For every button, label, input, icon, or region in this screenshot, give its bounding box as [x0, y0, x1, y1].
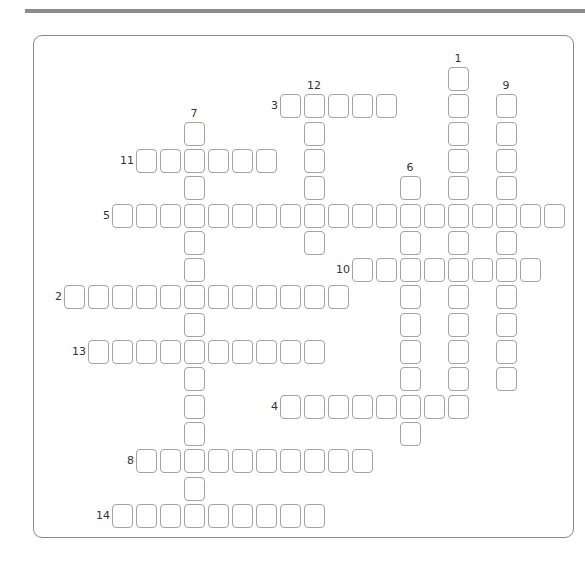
crossword-cell[interactable] [304, 395, 325, 419]
crossword-cell[interactable] [232, 449, 253, 473]
crossword-cell[interactable] [496, 176, 517, 200]
crossword-cell[interactable] [256, 504, 277, 528]
crossword-cell[interactable] [496, 204, 517, 228]
crossword-cell[interactable] [520, 204, 541, 228]
crossword-cell[interactable] [376, 258, 397, 282]
crossword-cell[interactable] [112, 204, 133, 228]
crossword-cell[interactable] [304, 94, 325, 118]
crossword-cell[interactable] [136, 204, 157, 228]
crossword-cell[interactable] [304, 231, 325, 255]
crossword-cell[interactable] [232, 204, 253, 228]
crossword-cell[interactable] [304, 149, 325, 173]
crossword-cell[interactable] [160, 504, 181, 528]
crossword-cell[interactable] [448, 149, 469, 173]
crossword-cell[interactable] [376, 395, 397, 419]
crossword-cell[interactable] [184, 231, 205, 255]
crossword-cell[interactable] [448, 204, 469, 228]
crossword-cell[interactable] [352, 258, 373, 282]
crossword-cell[interactable] [400, 204, 421, 228]
crossword-cell[interactable] [184, 422, 205, 446]
crossword-cell[interactable] [280, 204, 301, 228]
crossword-cell[interactable] [304, 204, 325, 228]
crossword-cell[interactable] [160, 449, 181, 473]
crossword-cell[interactable] [496, 231, 517, 255]
crossword-cell[interactable] [304, 449, 325, 473]
crossword-cell[interactable] [448, 231, 469, 255]
crossword-cell[interactable] [160, 204, 181, 228]
crossword-cell[interactable] [64, 285, 85, 309]
crossword-cell[interactable] [208, 340, 229, 364]
crossword-cell[interactable] [232, 149, 253, 173]
crossword-cell[interactable] [208, 504, 229, 528]
crossword-cell[interactable] [184, 285, 205, 309]
crossword-cell[interactable] [232, 340, 253, 364]
crossword-cell[interactable] [448, 258, 469, 282]
crossword-cell[interactable] [400, 285, 421, 309]
crossword-cell[interactable] [496, 122, 517, 146]
crossword-cell[interactable] [256, 149, 277, 173]
crossword-cell[interactable] [184, 449, 205, 473]
crossword-cell[interactable] [520, 258, 541, 282]
crossword-cell[interactable] [400, 422, 421, 446]
crossword-cell[interactable] [496, 285, 517, 309]
crossword-cell[interactable] [136, 449, 157, 473]
crossword-cell[interactable] [256, 340, 277, 364]
crossword-cell[interactable] [208, 149, 229, 173]
crossword-cell[interactable] [232, 285, 253, 309]
crossword-cell[interactable] [448, 367, 469, 391]
crossword-cell[interactable] [112, 340, 133, 364]
crossword-cell[interactable] [160, 285, 181, 309]
crossword-cell[interactable] [136, 504, 157, 528]
crossword-cell[interactable] [232, 504, 253, 528]
crossword-cell[interactable] [208, 285, 229, 309]
crossword-cell[interactable] [160, 149, 181, 173]
crossword-cell[interactable] [496, 367, 517, 391]
crossword-cell[interactable] [280, 504, 301, 528]
crossword-cell[interactable] [448, 313, 469, 337]
crossword-cell[interactable] [400, 395, 421, 419]
crossword-cell[interactable] [136, 149, 157, 173]
crossword-cell[interactable] [184, 504, 205, 528]
crossword-cell[interactable] [496, 313, 517, 337]
crossword-cell[interactable] [448, 67, 469, 91]
crossword-cell[interactable] [400, 313, 421, 337]
crossword-cell[interactable] [208, 204, 229, 228]
crossword-cell[interactable] [136, 285, 157, 309]
crossword-cell[interactable] [136, 340, 157, 364]
crossword-cell[interactable] [184, 258, 205, 282]
crossword-cell[interactable] [400, 176, 421, 200]
crossword-cell[interactable] [448, 340, 469, 364]
crossword-cell[interactable] [184, 122, 205, 146]
crossword-cell[interactable] [400, 367, 421, 391]
crossword-cell[interactable] [352, 204, 373, 228]
crossword-cell[interactable] [376, 204, 397, 228]
crossword-cell[interactable] [88, 340, 109, 364]
crossword-cell[interactable] [256, 204, 277, 228]
crossword-cell[interactable] [304, 340, 325, 364]
crossword-cell[interactable] [376, 94, 397, 118]
crossword-cell[interactable] [304, 176, 325, 200]
crossword-cell[interactable] [352, 449, 373, 473]
crossword-cell[interactable] [184, 340, 205, 364]
crossword-cell[interactable] [256, 285, 277, 309]
crossword-cell[interactable] [352, 395, 373, 419]
crossword-cell[interactable] [112, 285, 133, 309]
crossword-cell[interactable] [328, 449, 349, 473]
crossword-cell[interactable] [88, 285, 109, 309]
crossword-cell[interactable] [448, 122, 469, 146]
crossword-cell[interactable] [184, 176, 205, 200]
crossword-cell[interactable] [544, 204, 565, 228]
crossword-cell[interactable] [304, 122, 325, 146]
crossword-cell[interactable] [496, 258, 517, 282]
crossword-cell[interactable] [280, 94, 301, 118]
crossword-cell[interactable] [400, 258, 421, 282]
crossword-cell[interactable] [256, 449, 277, 473]
crossword-cell[interactable] [328, 285, 349, 309]
crossword-cell[interactable] [448, 94, 469, 118]
crossword-cell[interactable] [328, 395, 349, 419]
crossword-cell[interactable] [208, 449, 229, 473]
crossword-cell[interactable] [400, 231, 421, 255]
crossword-cell[interactable] [328, 94, 349, 118]
crossword-cell[interactable] [280, 395, 301, 419]
crossword-cell[interactable] [352, 94, 373, 118]
